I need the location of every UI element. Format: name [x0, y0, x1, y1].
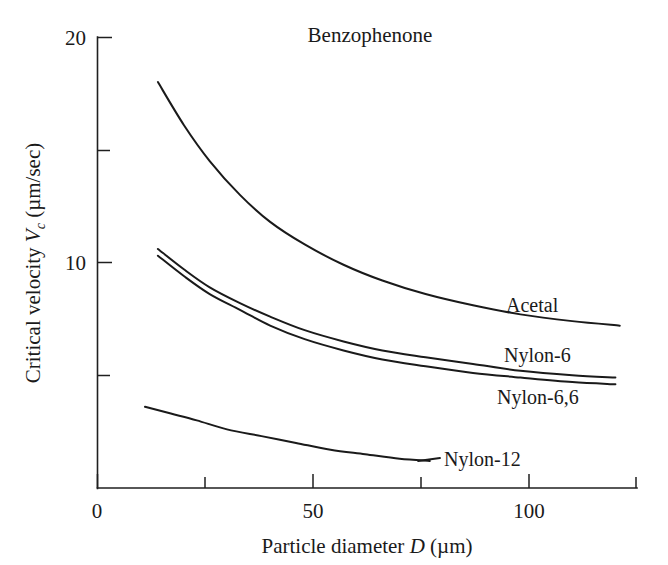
x-tick-label-100: 100 — [513, 499, 545, 523]
x-axis-title-lead: Particle diameter — [262, 534, 410, 558]
series-labels: Acetal Nylon-6 Nylon-6,6 Nylon-12 — [444, 294, 579, 471]
x-tick-label-0: 0 — [92, 499, 103, 523]
x-axis-title-unit: (µm) — [425, 534, 473, 558]
series-label-nylon-6-6: Nylon-6,6 — [497, 386, 579, 409]
benzophenone-critical-velocity-chart: 20 10 0 50 100 Benzophenone Particle dia… — [0, 0, 668, 565]
series-label-acetal: Acetal — [506, 294, 559, 316]
x-tick-label-50: 50 — [303, 499, 324, 523]
chart-figure: 20 10 0 50 100 Benzophenone Particle dia… — [0, 0, 668, 565]
y-axis-title: Critical velocity Vc (µm/sec) — [21, 143, 48, 384]
x-axis-ticks — [98, 474, 637, 488]
chart-title: Benzophenone — [308, 23, 433, 47]
curve-nylon-12 — [145, 407, 430, 461]
series-label-nylon-6: Nylon-6 — [504, 344, 571, 367]
y-tick-label-10: 10 — [65, 251, 86, 275]
y-axis-title-unit: (µm/sec) — [21, 143, 45, 223]
y-axis-title-lead: Critical velocity — [21, 242, 45, 383]
x-axis-title: Particle diameter D (µm) — [262, 534, 473, 558]
axes-group — [98, 37, 638, 489]
curve-acetal — [158, 82, 620, 326]
x-axis-title-symbol: D — [409, 534, 425, 558]
y-tick-label-20: 20 — [65, 26, 86, 50]
y-axis-ticks — [98, 38, 113, 376]
series-label-nylon-12: Nylon-12 — [444, 448, 521, 471]
